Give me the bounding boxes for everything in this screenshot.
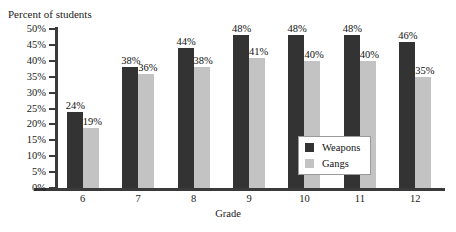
bar-group: 38%36% [122,29,154,188]
x-tick-label-grade-7: 7 [136,193,141,204]
y-tick-label: 20% [27,119,46,129]
bar-gangs-grade-6 [83,128,99,188]
x-tick-label-grade-9: 9 [246,193,251,204]
bar-gangs-grade-7 [138,74,154,188]
y-tick-label: 0% [32,183,46,193]
value-label-weapons-grade-9: 48% [232,23,251,34]
y-tick-label: 35% [27,72,46,82]
y-tick-label: 25% [27,104,46,114]
value-label-gangs-grade-8: 38% [194,55,213,66]
bar-group: 24%19% [67,29,99,188]
value-label-weapons-grade-12: 46% [398,30,417,41]
legend: Weapons Gangs [298,136,371,175]
bar-weapons-grade-9 [233,35,249,188]
bar-gangs-grade-12 [415,77,431,188]
legend-label-weapons: Weapons [322,142,360,153]
y-tick-mark [49,60,57,62]
bar-gangs-grade-8 [194,67,210,188]
bar-group: 48%41% [233,29,265,188]
bar-weapons-grade-6 [67,112,83,188]
y-tick-mark [49,123,57,125]
legend-item-weapons: Weapons [305,142,360,153]
y-tick-label: 15% [27,135,46,145]
bar-group: 46%35% [399,29,431,188]
y-tick-mark [49,155,57,157]
value-label-gangs-grade-12: 35% [415,65,434,76]
legend-item-gangs: Gangs [305,158,360,169]
y-tick-label: 50% [27,24,46,34]
y-tick-mark [49,76,57,78]
plot-area: 0%5%10%15%20%25%30%35%40%45%50% 24%19%38… [57,29,445,188]
value-label-weapons-grade-8: 44% [177,36,196,47]
y-tick-label: 30% [27,88,46,98]
y-tick-mark [49,108,57,110]
y-tick-label: 5% [32,167,46,177]
bar-chart: Percent of students 0%5%10%15%20%25%30%3… [0,0,456,232]
bar-group: 44%38% [178,29,210,188]
legend-label-gangs: Gangs [322,158,349,169]
y-tick-label: 45% [27,40,46,50]
value-label-gangs-grade-6: 19% [83,116,102,127]
x-axis-line [34,188,445,191]
x-axis-title: Grade [0,208,456,219]
value-label-gangs-grade-11: 40% [360,49,379,60]
value-label-gangs-grade-9: 41% [249,46,268,57]
y-tick-mark [49,187,57,189]
legend-swatch-gangs [305,159,314,168]
x-tick-label-grade-11: 11 [355,193,365,204]
bar-gangs-grade-9 [249,58,265,188]
bar-weapons-grade-7 [122,67,138,188]
value-label-weapons-grade-11: 48% [343,23,362,34]
y-axis-title: Percent of students [8,8,92,20]
y-tick-mark [49,28,57,30]
value-label-gangs-grade-7: 36% [138,62,157,73]
x-tick-label-grade-6: 6 [80,193,85,204]
y-tick-label: 10% [27,151,46,161]
value-label-gangs-grade-10: 40% [304,49,323,60]
bar-weapons-grade-8 [178,48,194,188]
y-tick-mark [49,171,57,173]
value-label-weapons-grade-6: 24% [66,100,85,111]
y-tick-mark [49,92,57,94]
x-tick-label-grade-12: 12 [410,193,421,204]
legend-swatch-weapons [305,143,314,152]
bar-weapons-grade-12 [399,42,415,188]
x-tick-label-grade-8: 8 [191,193,196,204]
y-tick-mark [49,44,57,46]
y-tick-label: 40% [27,56,46,66]
x-tick-label-grade-10: 10 [299,193,310,204]
value-label-weapons-grade-10: 48% [287,23,306,34]
y-tick-mark [49,139,57,141]
